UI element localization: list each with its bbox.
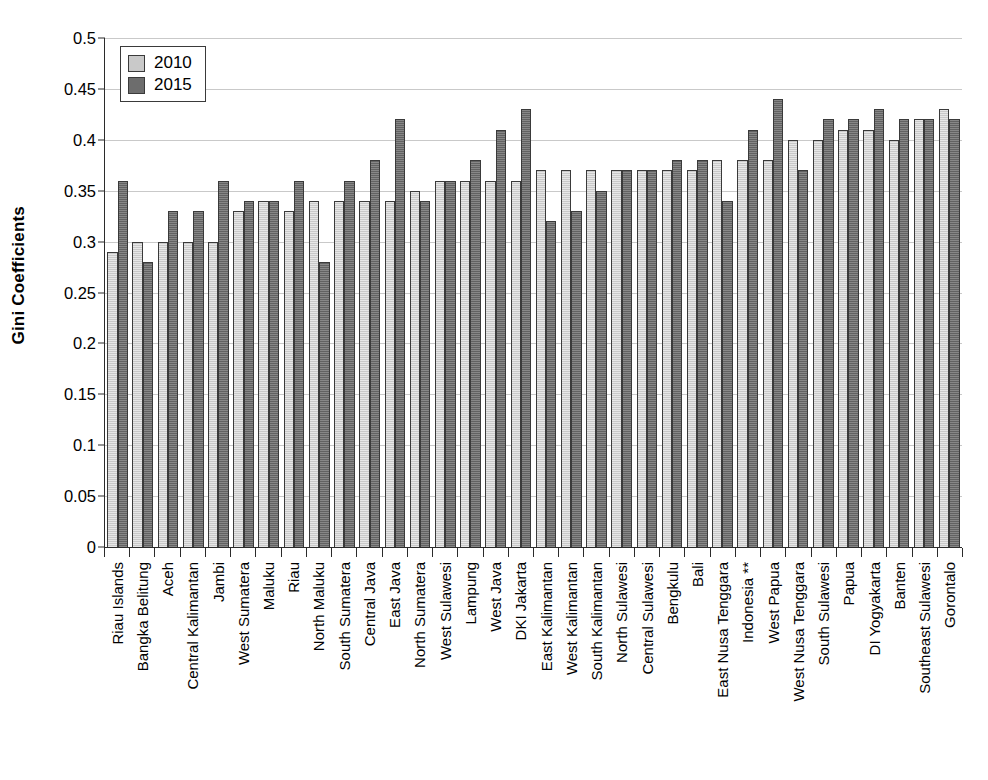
- x-axis-label-cell: North Sulawesi: [609, 560, 634, 778]
- bar-2010: [435, 181, 445, 547]
- y-tick-label: 0.25: [64, 283, 96, 302]
- x-axis-label-text: Gorontalo: [942, 562, 957, 628]
- x-axis-label-text: West Sumatera: [235, 562, 250, 665]
- x-tick-mark: [205, 548, 206, 557]
- bar-2010: [586, 170, 596, 547]
- x-axis-label-cell: West Nusa Tenggara: [785, 560, 810, 778]
- x-axis-label-cell: East Kalimantan: [533, 560, 558, 778]
- bar-2010: [132, 242, 142, 547]
- x-axis-label-text: Central Kalimantan: [185, 562, 200, 690]
- x-axis-label-text: Central Java: [361, 562, 376, 646]
- x-axis-label-cell: West Papua: [760, 560, 785, 778]
- bar-group: [811, 38, 836, 547]
- bar-group: [533, 38, 558, 547]
- x-axis-label-text: West Java: [488, 562, 503, 632]
- x-tick-mark: [281, 548, 282, 557]
- x-axis-label-text: Indonesia **: [740, 562, 755, 643]
- bar-2015: [344, 181, 354, 547]
- x-axis-label-cell: Lampung: [457, 560, 482, 778]
- bar-group: [685, 38, 710, 547]
- bar-2015: [269, 201, 279, 547]
- bar-group: [433, 38, 458, 547]
- x-tick-mark: [659, 548, 660, 557]
- x-axis-label-cell: South Sumatera: [331, 560, 356, 778]
- x-axis-labels: Riau IslandsBangka BelitungAcehCentral K…: [104, 560, 962, 778]
- x-axis-label-text: East Kalimantan: [538, 562, 553, 671]
- bar-2015: [949, 119, 959, 547]
- x-axis-label-cell: West Sulawesi: [432, 560, 457, 778]
- bar-2010: [485, 181, 495, 547]
- y-tick-label: 0.35: [64, 181, 96, 200]
- bar-2010: [233, 211, 243, 547]
- bar-2015: [823, 119, 833, 547]
- x-axis-label-cell: Papua: [836, 560, 861, 778]
- bar-2010: [561, 170, 571, 547]
- x-axis-label-cell: South Sulawesi: [811, 560, 836, 778]
- bar-group: [735, 38, 760, 547]
- bar-2010: [460, 181, 470, 547]
- bar-group: [130, 38, 155, 547]
- bar-series-container: [105, 38, 962, 547]
- x-tick-mark: [129, 548, 130, 557]
- bar-group: [584, 38, 609, 547]
- x-axis-label-cell: Bengkulu: [659, 560, 684, 778]
- x-axis-label-text: Lampung: [462, 562, 477, 625]
- legend-item-2010: 2010: [128, 52, 192, 74]
- bar-2010: [863, 130, 873, 547]
- bar-group: [710, 38, 735, 547]
- y-tick-mark: [98, 241, 105, 242]
- x-axis-label-cell: Riau: [281, 560, 306, 778]
- x-tick-mark: [937, 548, 938, 557]
- bar-group: [861, 38, 886, 547]
- x-axis-label-text: Bengkulu: [664, 562, 679, 625]
- y-tick-mark: [98, 445, 105, 446]
- x-axis-ticks: [104, 548, 962, 557]
- legend-item-2015: 2015: [128, 74, 192, 96]
- bar-group: [407, 38, 432, 547]
- y-tick-label: 0.4: [73, 130, 96, 149]
- bar-2010: [107, 252, 117, 547]
- x-tick-mark: [785, 548, 786, 557]
- bar-2010: [637, 170, 647, 547]
- x-tick-mark: [583, 548, 584, 557]
- bar-2010: [788, 140, 798, 547]
- x-axis-label-cell: Riau Islands: [104, 560, 129, 778]
- bar-2015: [899, 119, 909, 547]
- bar-2015: [848, 119, 858, 547]
- bar-group: [609, 38, 634, 547]
- bar-2010: [737, 160, 747, 547]
- bar-2015: [143, 262, 153, 547]
- bar-2010: [511, 181, 521, 547]
- x-tick-mark: [382, 548, 383, 557]
- bar-2010: [611, 170, 621, 547]
- bar-2015: [420, 201, 430, 547]
- bar-2010: [183, 242, 193, 547]
- x-tick-mark: [760, 548, 761, 557]
- bar-2015: [168, 211, 178, 547]
- y-tick-mark: [98, 139, 105, 140]
- y-tick-label: 0.45: [64, 79, 96, 98]
- x-tick-mark: [912, 548, 913, 557]
- x-axis-label-text: West Papua: [765, 562, 780, 643]
- y-tick-label: 0.1: [73, 436, 96, 455]
- legend-swatch-icon: [128, 55, 145, 72]
- x-axis-label-text: South Sulawesi: [816, 562, 831, 665]
- bar-group: [332, 38, 357, 547]
- bar-2010: [158, 242, 168, 547]
- bar-2015: [546, 221, 556, 547]
- x-axis-label-cell: West Sumatera: [230, 560, 255, 778]
- bar-2015: [773, 99, 783, 547]
- x-axis-label-cell: West Kalimantan: [558, 560, 583, 778]
- x-axis-label-text: South Kalimantan: [589, 562, 604, 680]
- bar-2015: [218, 181, 228, 547]
- x-tick-mark: [886, 548, 887, 557]
- x-axis-label-cell: Gorontalo: [937, 560, 962, 778]
- x-axis-label-cell: Southeast Sulawesi: [912, 560, 937, 778]
- x-tick-mark: [684, 548, 685, 557]
- bar-group: [912, 38, 937, 547]
- bar-group: [483, 38, 508, 547]
- bar-2015: [521, 109, 531, 547]
- bar-2015: [370, 160, 380, 547]
- x-axis-label-cell: Indonesia **: [735, 560, 760, 778]
- bar-group: [659, 38, 684, 547]
